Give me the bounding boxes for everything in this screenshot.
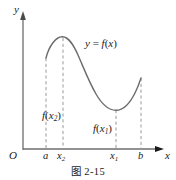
value-label-f-x1: f(x1) [93,123,112,136]
tick-label-x1: x1 [110,151,118,162]
tick-label-x1-subscript: 1 [115,155,118,162]
tick-label-b-text: b [138,150,143,161]
y-axis [20,11,26,150]
x-axis-label: x [165,150,170,161]
function-label-equals: = [90,37,102,49]
function-equation-label: y = f(x) [85,38,117,49]
figure-caption: 图 2-15 [0,163,176,178]
value-label-x2-close-paren: ) [57,109,61,121]
function-label-close-paren: ) [113,37,117,49]
value-label-x1-close-paren: ) [108,122,112,134]
tick-label-x2-subscript: 2 [62,155,65,162]
plot-area [0,0,176,180]
figure-container: y x O y = f(x) f(x2) f(x1) a x2 x1 b 图 2… [0,0,176,180]
tick-label-b: b [138,151,143,162]
value-label-f-x2: f(x2) [42,110,61,123]
origin-label: O [9,150,17,161]
tick-label-x2: x2 [57,151,65,162]
y-axis-label: y [14,4,19,15]
tick-label-a-text: a [43,150,48,161]
tick-label-a: a [43,151,48,162]
